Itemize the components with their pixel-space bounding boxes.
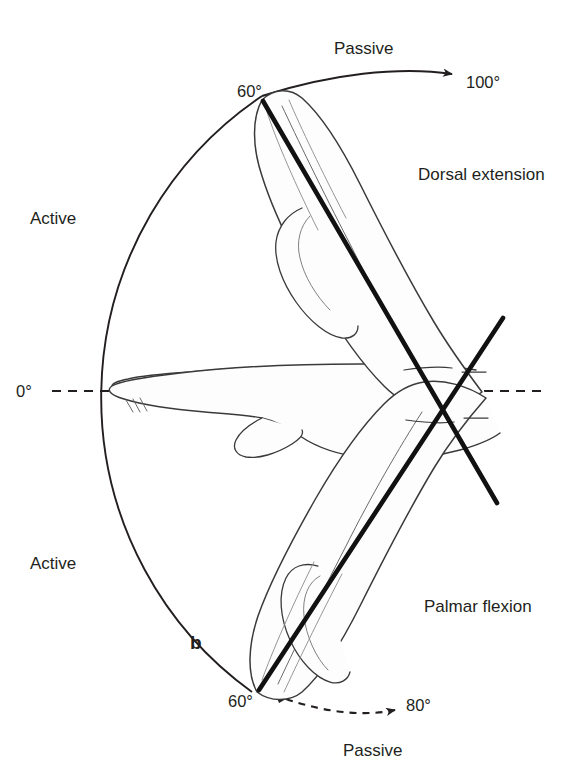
label-palmar-flexion: Palmar flexion <box>424 598 532 615</box>
label-passive-extension-angle: 100° <box>466 74 500 91</box>
figure-panel-b: Passive 60° 100° Dorsal extension Active… <box>0 0 577 779</box>
wrist-rom-illustration <box>0 0 577 779</box>
label-passive-flexion-angle: 80° <box>406 697 431 714</box>
label-active-lower: Active <box>30 555 76 572</box>
label-neutral-angle: 0° <box>16 383 32 400</box>
label-active-flexion-angle: 60° <box>228 693 253 710</box>
label-passive-top: Passive <box>334 40 394 57</box>
panel-label-b: b <box>190 633 202 652</box>
label-active-extension-angle: 60° <box>237 83 262 100</box>
hand-dorsal-extension-position <box>255 91 487 409</box>
label-passive-bottom: Passive <box>343 742 403 759</box>
label-dorsal-extension: Dorsal extension <box>418 166 545 183</box>
label-active-upper: Active <box>30 210 76 227</box>
